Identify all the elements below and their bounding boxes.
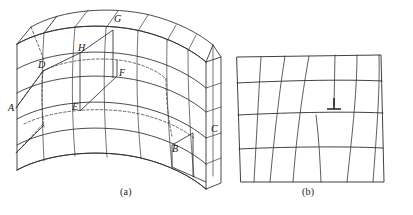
panel-b-cross-section: [231, 48, 411, 188]
panel-b-caption: (b): [302, 186, 314, 197]
right-side-face: [206, 45, 221, 189]
vertex-label-F: F: [118, 67, 126, 78]
figure-canvas: A B C D E F G H (a): [0, 0, 413, 215]
edge-dislocation-symbol: [327, 98, 341, 109]
front-face-horizontal-lines: [17, 26, 206, 189]
vertex-label-G: G: [114, 13, 121, 24]
vertex-label-D: D: [37, 59, 46, 70]
vertex-label-B: B: [172, 143, 178, 154]
vertex-label-H: H: [77, 42, 86, 53]
panel-a-crystal-block: A B C D E F G H: [0, 0, 230, 190]
vertex-label-C: C: [211, 123, 218, 134]
bottom-face: [17, 153, 206, 189]
cross-section-outline: [237, 55, 384, 182]
cross-section-vertical-lines: [254, 55, 379, 182]
vertex-label-A: A: [7, 102, 15, 113]
vertex-label-E: E: [71, 101, 78, 112]
panel-a-caption: (a): [120, 186, 132, 197]
